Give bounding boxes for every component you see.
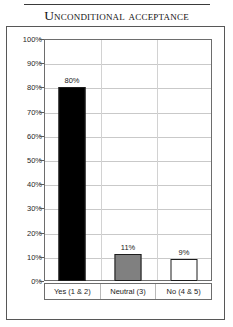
bar-slot: 9%	[156, 39, 212, 281]
y-axis-tick	[40, 281, 44, 282]
y-axis-tick-label: 100%	[9, 35, 42, 44]
bar-value-label: 9%	[179, 248, 190, 257]
chart-title-block: Unconditional acceptance	[0, 0, 233, 26]
bars-layer: 80%11%9%	[44, 39, 212, 281]
category-label: Yes (1 & 2)	[45, 284, 101, 299]
y-axis-tick-label: 20%	[9, 228, 42, 237]
bar-value-label: 11%	[121, 243, 135, 252]
y-axis-tick-label: 60%	[9, 131, 42, 140]
bar	[115, 254, 142, 281]
y-axis-tick-label: 40%	[9, 180, 42, 189]
y-axis-tick-label: 10%	[9, 252, 42, 261]
category-axis: Yes (1 & 2)Neutral (3)No (4 & 5)	[44, 283, 212, 300]
bar	[171, 259, 198, 281]
y-axis-tick-label: 50%	[9, 156, 42, 165]
bar-slot: 11%	[100, 39, 156, 281]
bar-value-label: 80%	[64, 76, 79, 85]
y-axis-tick-label: 70%	[9, 107, 42, 116]
title-rule	[24, 4, 210, 5]
bar-slot: 80%	[44, 39, 100, 281]
y-axis-tick-label: 80%	[9, 83, 42, 92]
y-axis-tick-label: 0%	[9, 277, 42, 286]
category-label: No (4 & 5)	[156, 284, 211, 299]
category-label: Neutral (3)	[101, 284, 157, 299]
y-axis-tick-label: 30%	[9, 204, 42, 213]
chart-frame: 100%90%80%70%60%50%40%30%20%10%0% 80%11%…	[6, 26, 225, 320]
y-axis: 100%90%80%70%60%50%40%30%20%10%0%	[7, 39, 42, 281]
page-title: Unconditional acceptance	[0, 8, 233, 24]
bar	[59, 87, 86, 281]
y-axis-tick-label: 90%	[9, 59, 42, 68]
